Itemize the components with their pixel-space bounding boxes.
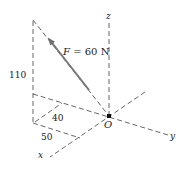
- force-label: F = 60 N: [62, 46, 110, 57]
- force-diagram: z y x O F = 60 N 110 40 50: [0, 0, 188, 173]
- z-axis-label: z: [105, 11, 111, 21]
- origin-label: O: [104, 119, 112, 130]
- origin-point: [107, 114, 111, 118]
- x-axis-label: x: [38, 150, 43, 160]
- y-axis-label: y: [169, 131, 176, 141]
- depth-dimension-40: 40: [52, 113, 64, 123]
- depth-dimension-50: 50: [41, 132, 53, 142]
- height-dimension: 110: [9, 70, 26, 80]
